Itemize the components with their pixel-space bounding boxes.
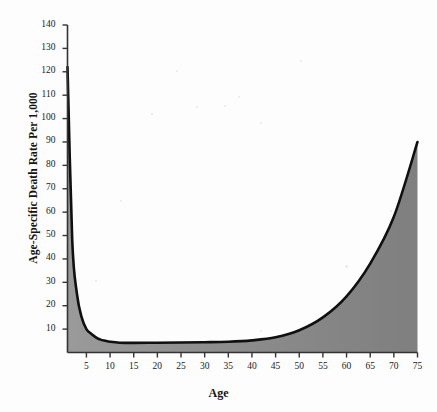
x-tick-label: 30: [193, 361, 217, 371]
scan-speck: [120, 200, 122, 202]
x-tick-label: 40: [240, 361, 264, 371]
y-tick-label: 90: [28, 135, 56, 145]
x-tick-label: 20: [145, 361, 169, 371]
x-tick-label: 15: [122, 361, 146, 371]
mortality-curve-figure: Age-Specific Death Rate Per 1,000 102030…: [0, 0, 437, 412]
x-tick-label: 10: [98, 361, 122, 371]
chart-canvas: [0, 0, 437, 412]
scan-speck: [238, 96, 240, 98]
x-tick-label: 60: [335, 361, 359, 371]
scan-speck: [260, 330, 262, 332]
scan-speck: [95, 280, 97, 282]
x-tick-label: 55: [311, 361, 335, 371]
y-tick-label: 70: [28, 182, 56, 192]
plot-area: [68, 67, 418, 352]
scan-speck: [196, 106, 198, 108]
x-tick-label: 70: [382, 361, 406, 371]
x-tick-label: 25: [169, 361, 193, 371]
y-tick-label: 40: [28, 252, 56, 262]
x-tick-label: 65: [358, 361, 382, 371]
y-tick-label: 50: [28, 229, 56, 239]
x-tick-label: 5: [74, 361, 98, 371]
y-tick-label: 130: [28, 42, 56, 52]
y-tick-label: 120: [28, 65, 56, 75]
area-fill: [68, 67, 418, 352]
scan-speck: [224, 105, 226, 107]
scan-speck: [151, 113, 153, 115]
x-tick-label: 35: [216, 361, 240, 371]
y-tick-label: 10: [28, 323, 56, 333]
x-tick-label: 50: [287, 361, 311, 371]
scan-speck: [176, 70, 178, 72]
x-tick-label: 45: [264, 361, 288, 371]
y-tick-label: 140: [28, 19, 56, 29]
y-tick-label: 20: [28, 299, 56, 309]
scan-speck: [300, 60, 302, 62]
x-tick-label: 75: [406, 361, 430, 371]
x-axis-title: Age: [0, 386, 437, 401]
y-tick-label: 80: [28, 159, 56, 169]
y-tick-label: 100: [28, 112, 56, 122]
y-tick-label: 30: [28, 276, 56, 286]
y-tick-label: 110: [28, 89, 56, 99]
y-tick-label: 60: [28, 206, 56, 216]
scan-speck: [345, 265, 348, 268]
scan-speck: [390, 210, 392, 212]
scan-speck: [260, 122, 262, 124]
